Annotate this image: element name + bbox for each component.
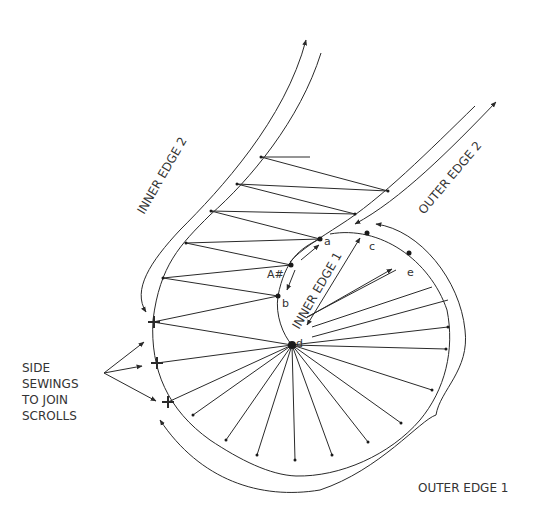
outer-edge-1-arrow [160, 224, 466, 492]
point-b [276, 294, 281, 299]
point-A [289, 263, 294, 268]
label-side-sewings-4: SCROLLS [22, 409, 77, 423]
label-c: c [369, 240, 375, 253]
inner-edge-2-line [153, 53, 321, 476]
label-d: d [296, 337, 303, 350]
point-c [365, 231, 370, 236]
label-a: a [324, 235, 331, 248]
radial-spokes [157, 270, 448, 460]
side-sewing-arrows [104, 342, 156, 401]
label-side-sewings-2: SEWINGS [22, 377, 79, 391]
point-a [318, 237, 323, 242]
arrow-A-to-a [301, 245, 319, 260]
point-e [407, 251, 412, 256]
label-b: b [282, 297, 289, 310]
scroll-sewing-diagram: a A# b c d e INNER EDGE 2 OUTER EDGE 2 I… [0, 0, 545, 515]
label-outer-edge-1: OUTER EDGE 1 [418, 481, 508, 495]
label-side-sewings-1: SIDE [22, 361, 50, 375]
point-d [288, 341, 296, 349]
outer-circle [296, 233, 450, 476]
label-side-sewings-3: TO JOIN [21, 393, 68, 407]
diagram-canvas: a A# b c d e INNER EDGE 2 OUTER EDGE 2 I… [0, 0, 545, 515]
label-A: A# [267, 268, 284, 281]
label-outer-edge-2: OUTER EDGE 2 [416, 139, 485, 217]
arrow-A-to-b [287, 270, 295, 290]
label-e: e [407, 266, 414, 279]
zigzag-stitches [153, 157, 388, 345]
side-sewing-crosses [148, 316, 174, 408]
label-inner-edge-2: INNER EDGE 2 [134, 135, 189, 217]
